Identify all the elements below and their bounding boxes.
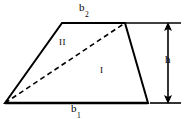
trapezoid-diagram: b2 b1 h I II xyxy=(0,0,184,119)
top-base-letter: b xyxy=(79,1,85,13)
bottom-base-subscript: 1 xyxy=(77,111,81,119)
dashed-diagonal xyxy=(5,23,125,103)
region-one-label: I xyxy=(100,66,104,75)
trapezoid-outline xyxy=(5,23,148,103)
top-base-subscript: 2 xyxy=(85,10,89,19)
bottom-base-label: b1 xyxy=(71,103,80,117)
geometry-canvas xyxy=(0,0,184,119)
region-two-label: II xyxy=(59,38,66,47)
top-base-label: b2 xyxy=(79,2,88,16)
bottom-base-letter: b xyxy=(71,102,77,114)
height-label: h xyxy=(165,54,171,65)
